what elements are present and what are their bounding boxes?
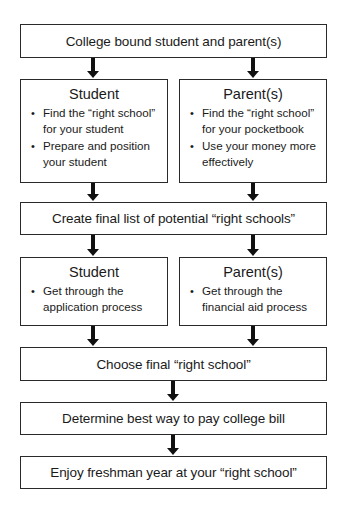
- arrow-parent-to-choose: [247, 326, 259, 347]
- arrow-start-to-student: [87, 58, 99, 79]
- bullet-item: Prepare and position your student: [43, 138, 167, 171]
- bullet-item: Use your money more effectively: [202, 138, 326, 171]
- node-choose: Choose final “right school”: [20, 347, 327, 381]
- arrow-student-to-list: [87, 183, 99, 202]
- arrow-list-to-student: [87, 235, 99, 257]
- node-student-2-title: Student: [21, 263, 167, 281]
- node-student-1-title: Student: [21, 85, 167, 103]
- node-start: College bound student and parent(s): [20, 24, 327, 58]
- node-student-2: Student Get through the application proc…: [20, 257, 168, 326]
- arrow-pay-to-enjoy: [167, 435, 179, 456]
- bullet-item: Get through the application process: [43, 283, 167, 316]
- node-choose-label: Choose final “right school”: [96, 357, 250, 372]
- node-parent-2-bullets: Get through the financial aid process: [180, 283, 326, 316]
- arrow-student-to-choose: [87, 326, 99, 347]
- node-enjoy-label: Enjoy freshman year at your “right schoo…: [50, 465, 296, 480]
- node-create-list: Create final list of potential “right sc…: [20, 202, 327, 235]
- node-parent-1-title: Parent(s): [180, 85, 326, 103]
- bullet-item: Find the “right school” for your student: [43, 105, 167, 138]
- arrow-start-to-parent: [247, 58, 259, 79]
- arrow-choose-to-pay: [167, 381, 179, 402]
- node-pay: Determine best way to pay college bill: [20, 402, 327, 435]
- node-parent-2-title: Parent(s): [180, 263, 326, 281]
- bullet-item: Find the “right school” for your pocketb…: [202, 105, 326, 138]
- node-student-1-bullets: Find the “right school” for your student…: [21, 105, 167, 170]
- arrow-parent-to-list: [247, 183, 259, 202]
- node-parent-1-bullets: Find the “right school” for your pocketb…: [180, 105, 326, 170]
- node-pay-label: Determine best way to pay college bill: [62, 411, 285, 426]
- bullet-item: Get through the financial aid process: [202, 283, 326, 316]
- node-create-list-label: Create final list of potential “right sc…: [52, 211, 295, 226]
- node-parent-2: Parent(s) Get through the financial aid …: [179, 257, 327, 326]
- node-parent-1: Parent(s) Find the “right school” for yo…: [179, 79, 327, 183]
- node-student-2-bullets: Get through the application process: [21, 283, 167, 316]
- node-enjoy: Enjoy freshman year at your “right schoo…: [20, 456, 327, 489]
- node-student-1: Student Find the “right school” for your…: [20, 79, 168, 183]
- arrow-list-to-parent: [247, 235, 259, 257]
- node-start-label: College bound student and parent(s): [66, 34, 282, 49]
